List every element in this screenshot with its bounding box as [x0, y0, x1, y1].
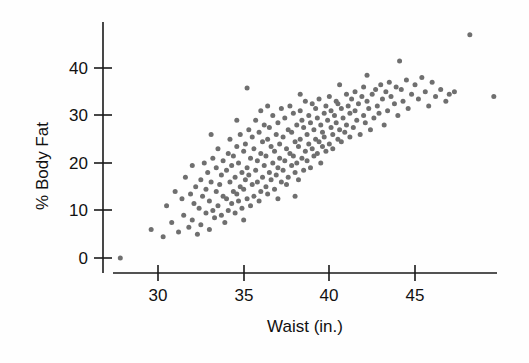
data-point [323, 104, 328, 109]
data-point [239, 170, 244, 175]
data-point [245, 85, 250, 90]
data-point [248, 203, 253, 208]
data-point [378, 82, 383, 87]
data-point [255, 158, 260, 163]
data-point [383, 89, 388, 94]
data-point [210, 208, 215, 213]
data-point [380, 96, 385, 101]
data-point [356, 101, 361, 106]
data-point [330, 146, 335, 151]
data-point [234, 191, 239, 196]
data-point [190, 218, 195, 223]
data-point [209, 132, 214, 137]
data-point [296, 144, 301, 149]
data-point [303, 99, 308, 104]
data-point [375, 104, 380, 109]
data-point [299, 156, 304, 161]
data-point [289, 163, 294, 168]
data-point [197, 206, 202, 211]
data-point [265, 191, 270, 196]
data-point [245, 196, 250, 201]
data-point [224, 168, 229, 173]
data-point [334, 120, 339, 125]
data-point [443, 99, 448, 104]
data-point [258, 151, 263, 156]
data-point [277, 156, 282, 161]
data-point [467, 32, 472, 37]
data-point [227, 180, 232, 185]
data-point [215, 146, 220, 151]
data-point [263, 153, 268, 158]
x-tick-label: 40 [320, 286, 339, 305]
data-point [229, 201, 234, 206]
data-point [217, 182, 222, 187]
data-point [291, 111, 296, 116]
data-point [269, 177, 274, 182]
data-point [347, 134, 352, 139]
data-point [190, 163, 195, 168]
data-point [361, 113, 366, 118]
y-tick-label: 20 [69, 154, 88, 173]
data-point [241, 149, 246, 154]
data-point [275, 196, 280, 201]
data-point [209, 180, 214, 185]
data-point [322, 111, 327, 116]
y-tick-label: 10 [69, 201, 88, 220]
data-point [281, 168, 286, 173]
data-point [353, 108, 358, 113]
data-point [392, 101, 397, 106]
x-tick-label: 30 [149, 286, 168, 305]
data-point [226, 208, 231, 213]
data-point [277, 142, 282, 147]
data-point [212, 215, 217, 220]
data-point [263, 184, 268, 189]
data-point [366, 106, 371, 111]
data-point [306, 113, 311, 118]
data-point [325, 118, 330, 123]
data-point [397, 58, 402, 63]
data-point [183, 175, 188, 180]
data-point [274, 172, 279, 177]
data-point [262, 123, 267, 128]
data-point [354, 118, 359, 123]
data-point [404, 77, 409, 82]
data-point [438, 87, 443, 92]
data-point [318, 161, 323, 166]
data-point [368, 127, 373, 132]
data-point [399, 87, 404, 92]
data-point [298, 92, 303, 97]
data-point [359, 94, 364, 99]
data-point [275, 120, 280, 125]
data-point [335, 101, 340, 106]
data-point [207, 227, 212, 232]
data-point [207, 199, 212, 204]
data-point [245, 165, 250, 170]
data-point [203, 210, 208, 215]
data-point [349, 96, 354, 101]
data-point [226, 151, 231, 156]
x-tick-label: 35 [235, 286, 254, 305]
data-point [293, 139, 298, 144]
data-point [382, 123, 387, 128]
data-point [358, 132, 363, 137]
data-point [257, 130, 262, 135]
data-point [327, 94, 332, 99]
data-point [243, 142, 248, 147]
data-point [241, 187, 246, 192]
data-point [262, 163, 267, 168]
data-point [308, 120, 313, 125]
data-point [395, 113, 400, 118]
data-point [246, 127, 251, 132]
data-point [198, 177, 203, 182]
y-tick-label: 0 [79, 249, 88, 268]
data-point [169, 220, 174, 225]
scatterplot-figure: 010203040 30354045 Waist (in.) % Body Fa… [0, 0, 529, 363]
data-point [318, 123, 323, 128]
data-point [267, 170, 272, 175]
data-point [306, 142, 311, 147]
data-point [238, 132, 243, 137]
data-point [287, 104, 292, 109]
data-point [423, 89, 428, 94]
data-point [284, 146, 289, 151]
data-point [430, 80, 435, 85]
